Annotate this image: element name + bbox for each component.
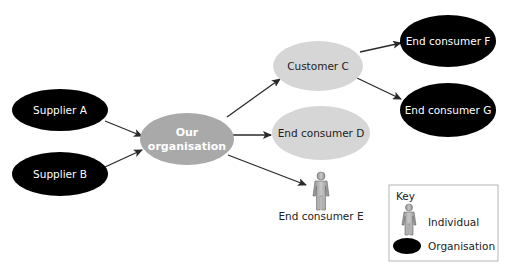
customer-c-label: Customer C — [287, 60, 349, 72]
arrow-our-org-to-end-consumer-e — [228, 155, 306, 185]
our-organisation-ellipse — [140, 113, 234, 165]
node-our-organisation: Our organisation — [140, 113, 234, 165]
node-supplier-a: Supplier A — [12, 89, 108, 131]
our-org-label-line1: Our — [176, 126, 199, 139]
node-supplier-b: Supplier B — [12, 152, 108, 196]
supplier-a-label: Supplier A — [33, 104, 88, 116]
arrow-supplier-b-to-our-org — [105, 150, 142, 167]
key-item-organisation: Organisation — [393, 238, 495, 254]
node-end-consumer-f: End consumer F — [400, 15, 496, 67]
node-customer-c: Customer C — [273, 41, 363, 91]
our-org-label-line2: organisation — [148, 140, 226, 153]
key-legend: Key Individual Organisation — [389, 185, 498, 261]
node-end-consumer-g: End consumer G — [400, 83, 496, 137]
key-title: Key — [396, 190, 415, 202]
person-icon — [313, 172, 329, 210]
black-ellipse-icon — [393, 238, 421, 254]
end-consumer-d-label: End consumer D — [278, 127, 365, 139]
end-consumer-e-label: End consumer E — [278, 210, 363, 222]
end-consumer-f-label: End consumer F — [406, 35, 491, 47]
arrow-our-org-to-customer-c — [227, 79, 280, 117]
arrow-customer-c-to-end-consumer-g — [357, 78, 401, 99]
arrow-supplier-a-to-our-org — [105, 121, 142, 136]
supply-chain-diagram: Supplier A Supplier B Our organisation C… — [0, 0, 511, 273]
key-organisation-label: Organisation — [428, 240, 495, 252]
supplier-b-label: Supplier B — [33, 168, 87, 180]
key-individual-label: Individual — [428, 216, 479, 228]
arrow-customer-c-to-end-consumer-f — [360, 43, 401, 52]
node-end-consumer-d: End consumer D — [272, 106, 370, 160]
end-consumer-g-label: End consumer G — [405, 104, 492, 116]
